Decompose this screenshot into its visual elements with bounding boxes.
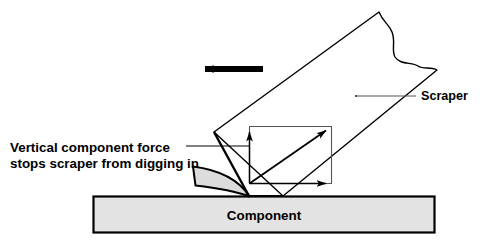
- diagram-canvas: Component Vertical component force stops…: [0, 0, 484, 241]
- scraper-body: [214, 12, 437, 196]
- vertical-force-annotation-line2: stops scraper from digging in: [10, 156, 199, 171]
- component-label: Component: [227, 208, 302, 223]
- scraper-label: Scraper: [421, 89, 468, 103]
- vertical-force-annotation-line1: Vertical component force: [10, 140, 170, 155]
- scraper-leader-dot: [355, 95, 357, 97]
- scraper-force-diagram: Component Vertical component force stops…: [0, 0, 484, 241]
